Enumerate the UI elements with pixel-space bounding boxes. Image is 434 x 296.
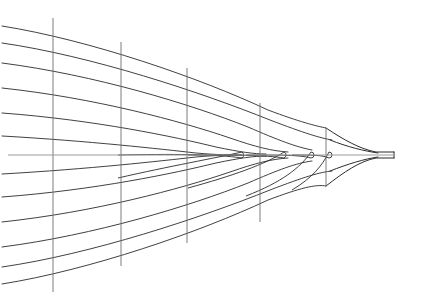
drawing-sheet bbox=[0, 0, 434, 296]
hull-lines-plan-diagram bbox=[0, 0, 434, 296]
